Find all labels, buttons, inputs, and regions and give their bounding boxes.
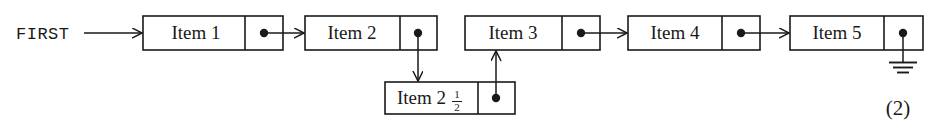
fraction-denominator: 2 — [454, 101, 460, 113]
fraction-numerator: 1 — [454, 88, 460, 100]
node-item5-label: Item 5 — [812, 22, 861, 43]
node-item2half-label: Item 2 — [397, 87, 446, 108]
head-pointer-label: FIRST — [16, 25, 70, 44]
node-item1-label: Item 1 — [171, 22, 220, 43]
node-item2: Item 2 — [305, 16, 437, 50]
equation-number: (2) — [886, 96, 911, 120]
node-item4: Item 4 — [628, 16, 760, 50]
node-item1: Item 1 — [143, 16, 283, 50]
node-item3: Item 3 — [465, 16, 600, 50]
node-item3-label: Item 3 — [488, 22, 537, 43]
node-item4-label: Item 4 — [650, 22, 700, 43]
linked-list-figure: FIRST Item 1 Item 2 — [0, 0, 939, 126]
linked-list-diagram-canvas: FIRST Item 1 Item 2 — [0, 0, 939, 126]
node-item2-label: Item 2 — [327, 22, 376, 43]
